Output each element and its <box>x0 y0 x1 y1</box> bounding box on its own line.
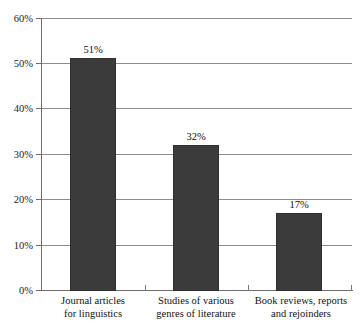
category-label-studies-genres-line2: genres of literature <box>146 307 246 320</box>
y-axis-label-60: 60% <box>0 13 33 24</box>
y-axis-label-10: 10% <box>0 240 33 251</box>
y-axis-label-40: 40% <box>0 103 33 114</box>
y-axis-label-60-text: 60% <box>14 13 33 24</box>
bar-value-journal-articles: 51% <box>70 44 116 55</box>
x-tick-mark-1 <box>145 285 146 291</box>
bar-chart: 60% 50% 40% 30% 20% 10% 0% 51% 32% 17% J… <box>0 0 361 327</box>
bar-journal-articles <box>70 58 116 291</box>
y-axis-line <box>41 18 42 291</box>
y-axis-label-0-text: 0% <box>19 285 33 296</box>
bar-book-reviews <box>276 213 322 291</box>
y-tick-mark-20 <box>36 199 41 200</box>
category-label-book-reviews-line2: and rejoinders <box>249 307 353 320</box>
y-axis-label-10-text: 10% <box>14 240 33 251</box>
y-axis-label-20: 20% <box>0 194 33 205</box>
bar-studies-genres <box>173 145 219 291</box>
category-label-studies-genres-line1: Studies of various <box>146 294 246 307</box>
y-axis-label-50-text: 50% <box>14 58 33 69</box>
y-axis-label-40-text: 40% <box>14 103 33 114</box>
bar-value-book-reviews: 17% <box>276 199 322 210</box>
x-tick-mark-3 <box>351 285 352 291</box>
y-axis-label-30: 30% <box>0 149 33 160</box>
category-label-journal-articles-line2: for linguistics <box>43 307 143 320</box>
x-tick-mark-2 <box>248 285 249 291</box>
y-tick-mark-40 <box>36 108 41 109</box>
y-axis-label-30-text: 30% <box>14 149 33 160</box>
y-tick-mark-10 <box>36 245 41 246</box>
category-label-book-reviews-line1: Book reviews, reports <box>249 294 353 307</box>
category-label-book-reviews: Book reviews, reports and rejoinders <box>249 294 353 320</box>
y-tick-mark-50 <box>36 63 41 64</box>
y-axis-label-0: 0% <box>0 285 33 296</box>
y-tick-mark-30 <box>36 154 41 155</box>
y-axis-label-20-text: 20% <box>14 194 33 205</box>
bar-value-studies-genres: 32% <box>173 131 219 142</box>
y-axis-label-50: 50% <box>0 58 33 69</box>
category-label-studies-genres: Studies of various genres of literature <box>146 294 246 320</box>
y-tick-mark-0 <box>36 290 41 291</box>
category-label-journal-articles-line1: Journal articles <box>43 294 143 307</box>
y-tick-mark-60 <box>36 18 41 19</box>
gridline-60 <box>41 18 352 19</box>
category-label-journal-articles: Journal articles for linguistics <box>43 294 143 320</box>
